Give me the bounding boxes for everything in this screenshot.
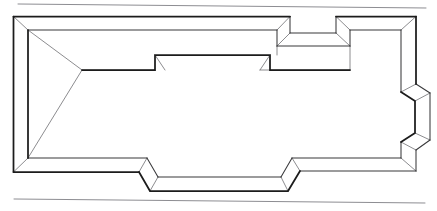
line-drawing-svg [0, 0, 437, 211]
drawing-canvas [0, 0, 437, 211]
